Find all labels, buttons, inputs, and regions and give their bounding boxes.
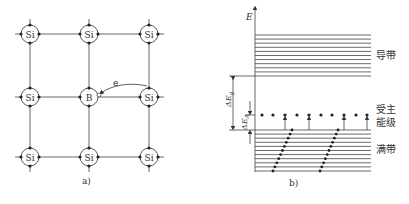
conduction-band-lines	[255, 35, 371, 76]
valence-band-lines	[255, 130, 371, 171]
svg-text:Si: Si	[144, 30, 153, 40]
acceptor-level	[260, 113, 368, 130]
band-panel	[229, 8, 371, 172]
caption-b: b)	[289, 178, 298, 188]
atoms: SiSiSiSiBSiSiSiSi	[19, 23, 159, 167]
svg-text:Si: Si	[84, 153, 93, 163]
acceptor-level-label-2: 能级	[376, 116, 396, 128]
atom-si: Si	[19, 86, 40, 107]
svg-text:Si: Si	[25, 30, 34, 40]
electron-transfer: e	[97, 78, 147, 97]
atom-si: Si	[138, 23, 159, 44]
hole-icon	[97, 93, 101, 97]
energy-axis-label: E	[245, 12, 253, 22]
svg-text:Si: Si	[25, 153, 34, 163]
svg-text:Si: Si	[25, 93, 34, 103]
atom-si: Si	[19, 146, 40, 167]
atom-b: B	[78, 86, 98, 107]
svg-text:Si: Si	[144, 93, 153, 103]
svg-text:Si: Si	[84, 30, 93, 40]
svg-text:ΔEA: ΔEA	[240, 113, 250, 131]
semiconductor-diagram: SiSiSiSiBSiSiSiSi e a) E ΔEg ΔEA 导带 受主 能…	[0, 0, 409, 204]
svg-text:B: B	[86, 93, 93, 103]
acceptor-level-label-1: 受主	[376, 104, 396, 115]
atom-si: Si	[78, 23, 99, 44]
atom-si: Si	[19, 23, 40, 44]
atom-si: Si	[78, 146, 99, 167]
caption-a: a)	[82, 176, 91, 186]
electron-label: e	[113, 78, 118, 88]
atom-si: Si	[138, 86, 159, 107]
valence-band-label: 满带	[376, 144, 396, 155]
svg-text:Si: Si	[144, 153, 153, 163]
atom-si: Si	[138, 146, 159, 167]
conduction-band-label: 导带	[376, 50, 396, 61]
acceptor-energy-label: ΔEA	[240, 113, 250, 131]
